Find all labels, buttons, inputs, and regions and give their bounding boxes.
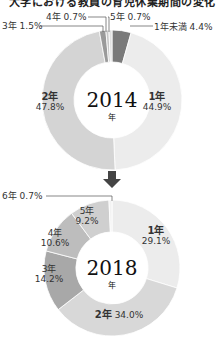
label-top-4yr: 4年 0.7% <box>46 12 86 22</box>
label-top-5yr: 5年 0.7% <box>110 12 150 22</box>
down-arrow-icon <box>103 171 121 188</box>
label-top-3yr: 3年 1.5% <box>2 21 42 31</box>
center-year-2018: 2018 <box>82 256 142 280</box>
label-bottom-6yr: 6年 0.7% <box>2 191 42 201</box>
label-bottom-3yr: 3年14.2% <box>32 264 66 284</box>
label-top-2yr: 2年47.8% <box>30 92 70 112</box>
label-bottom-4yr: 4年10.6% <box>38 228 72 248</box>
center-unit-2018: 年 <box>82 279 142 290</box>
label-bottom-2yr: 2年 34.0% <box>84 310 154 320</box>
label-top-under1yr: 1年未満 4.4% <box>154 22 212 32</box>
label-bottom-1yr: 1年29.1% <box>134 226 178 246</box>
center-year-2014: 2014 <box>82 88 142 112</box>
center-unit-2014: 年 <box>82 111 142 122</box>
label-bottom-5yr: 5年9.2% <box>72 206 102 226</box>
